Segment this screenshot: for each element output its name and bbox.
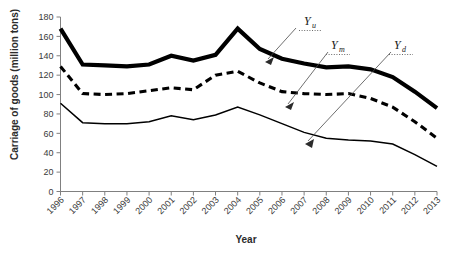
x-tick-label: 2010 xyxy=(355,195,376,216)
annotation-label-yu: Y xyxy=(304,14,312,28)
annotation-yu: Y u xyxy=(265,14,322,65)
annotation-label-ym: Y xyxy=(331,38,339,52)
annotation-arrowhead-yd xyxy=(305,139,314,148)
x-tick-label: 2004 xyxy=(222,195,243,216)
x-tick-label: 2012 xyxy=(399,195,420,216)
series-line-upper xyxy=(61,29,438,109)
y-tick-label: 40 xyxy=(43,148,53,158)
x-tick-label: 1998 xyxy=(89,195,110,216)
y-axis: 020406080100120140160180 xyxy=(38,12,60,197)
x-tick-label: 2011 xyxy=(377,195,398,216)
x-tick-label: 2013 xyxy=(421,195,442,216)
x-tick-label: 2003 xyxy=(200,195,221,216)
annotation-subscript-yd: d xyxy=(402,45,407,54)
annotation-ym: Y m xyxy=(285,38,350,110)
x-axis: 1996199719981999200020012002200320042005… xyxy=(45,192,443,246)
x-tick-label: 2009 xyxy=(333,195,354,216)
x-tick-label: 2006 xyxy=(266,195,287,216)
annotation-label-yd: Y xyxy=(394,38,402,52)
annotation-subscript-ym: m xyxy=(339,45,345,54)
y-tick-label: 80 xyxy=(43,109,53,119)
x-tick-label: 2008 xyxy=(310,195,331,216)
annotation-arrowhead-ym xyxy=(285,102,294,110)
x-tick-label: 1997 xyxy=(67,195,88,216)
x-tick-label: 2005 xyxy=(244,195,265,216)
x-tick-group: 1996199719981999200020012002200320042005… xyxy=(45,192,443,217)
y-axis-title: Carriage of goods (million tons) xyxy=(9,9,20,160)
line-chart: Carriage of goods (million tons) 0204060… xyxy=(0,0,469,253)
y-tick-label: 20 xyxy=(43,167,53,177)
annotation-yd: Y d xyxy=(305,38,413,148)
annotation-arrowhead-yu xyxy=(265,57,274,65)
y-tick-label: 120 xyxy=(38,70,53,80)
series-line-middle xyxy=(61,66,438,138)
y-tick-label: 60 xyxy=(43,129,53,139)
y-tick-label: 180 xyxy=(38,12,53,22)
chart-container: Carriage of goods (million tons) 0204060… xyxy=(0,0,469,253)
y-tick-label: 100 xyxy=(38,90,53,100)
y-tick-label: 160 xyxy=(38,32,53,42)
annotation-leader-yu xyxy=(268,28,296,59)
y-tick-group: 020406080100120140160180 xyxy=(38,12,60,197)
y-tick-label: 140 xyxy=(38,51,53,61)
annotation-subscript-yu: u xyxy=(312,21,316,30)
y-tick-label: 0 xyxy=(48,187,53,197)
series-group xyxy=(61,29,438,167)
series-line-lower xyxy=(61,103,438,166)
x-axis-title: Year xyxy=(235,234,256,245)
y-axis-title-group: Carriage of goods (million tons) xyxy=(9,9,20,160)
x-tick-label: 2000 xyxy=(133,195,154,216)
x-tick-label: 1996 xyxy=(45,195,66,216)
x-tick-label: 2001 xyxy=(155,195,176,216)
x-tick-label: 2002 xyxy=(178,195,199,216)
x-tick-label: 1999 xyxy=(111,195,132,216)
x-tick-label: 2007 xyxy=(288,195,309,216)
